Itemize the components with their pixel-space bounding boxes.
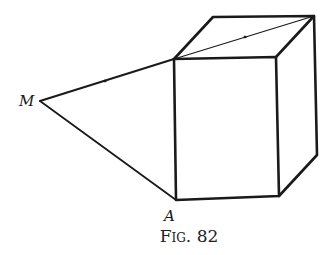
label-m: M xyxy=(19,92,34,110)
figure-caption: Fig. 82 xyxy=(0,226,335,246)
tick-mark-mid-diagonal xyxy=(244,36,246,38)
label-a: A xyxy=(164,207,175,225)
tick-mark-mid-m-line xyxy=(104,80,106,82)
line-m-to-cube-top xyxy=(40,59,174,101)
cube-front-face xyxy=(174,57,279,200)
cube-right-face xyxy=(279,16,317,196)
line-m-to-a xyxy=(40,101,176,200)
